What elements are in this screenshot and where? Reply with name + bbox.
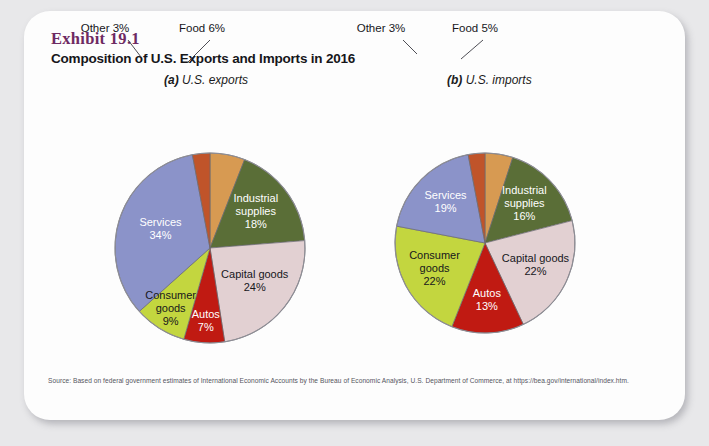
slice-label-autos: Autos13% bbox=[473, 287, 502, 312]
source-note: Source: Based on federal government esti… bbox=[48, 376, 648, 386]
leader-line-food bbox=[461, 40, 483, 59]
exhibit-card: Exhibit 19.1 Composition of U.S. Exports… bbox=[24, 11, 685, 420]
callout-label-other: Other 3% bbox=[357, 22, 406, 34]
leader-line-other bbox=[403, 40, 417, 54]
source-line-2: https://bea.gov/international/index.htm. bbox=[514, 377, 629, 384]
pie-chart-imports: Food 5%Industrialsupplies16%Capital good… bbox=[24, 11, 685, 420]
callout-label-food: Food 5% bbox=[452, 22, 498, 34]
source-line-1: Source: Based on federal government esti… bbox=[48, 377, 512, 384]
